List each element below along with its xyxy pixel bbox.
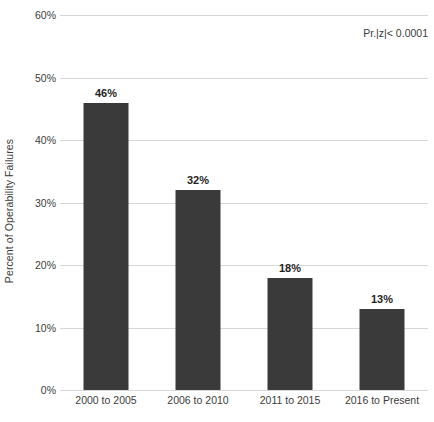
y-tick-label: 30% [16, 197, 56, 209]
bar-slot: 18% [244, 15, 336, 390]
bar-value-label: 32% [187, 174, 209, 186]
x-tick-label: 2011 to 2015 [260, 394, 321, 406]
x-tick-label: 2016 to Present [345, 394, 419, 406]
bar-slot: 32% [152, 15, 244, 390]
x-axis-tick-labels: 2000 to 20052006 to 20102011 to 20152016… [60, 394, 428, 414]
bar[interactable] [268, 278, 313, 391]
bar[interactable] [84, 103, 129, 391]
bars-layer: 46%32%18%13% [60, 15, 428, 390]
x-tick-label: 2000 to 2005 [75, 394, 136, 406]
bar[interactable] [360, 309, 405, 390]
bar-slot: 46% [60, 15, 152, 390]
x-tick-label: 2006 to 2010 [167, 394, 228, 406]
bar-value-label: 13% [371, 293, 393, 305]
y-tick-label: 60% [16, 9, 56, 21]
y-tick-label: 50% [16, 72, 56, 84]
significance-annotation: Pr.|z|< 0.0001 [363, 27, 428, 39]
y-tick-label: 0% [16, 384, 56, 396]
y-tick-label: 20% [16, 259, 56, 271]
bar-chart: Percent of Operability Failures 0%10%20%… [0, 0, 434, 422]
y-tick-label: 40% [16, 134, 56, 146]
bar[interactable] [176, 190, 221, 390]
gridline [60, 390, 428, 391]
y-axis-tick-labels: 0%10%20%30%40%50%60% [12, 15, 56, 390]
y-tick-label: 10% [16, 322, 56, 334]
bar-slot: 13% [336, 15, 428, 390]
bar-value-label: 18% [279, 262, 301, 274]
bar-value-label: 46% [95, 87, 117, 99]
